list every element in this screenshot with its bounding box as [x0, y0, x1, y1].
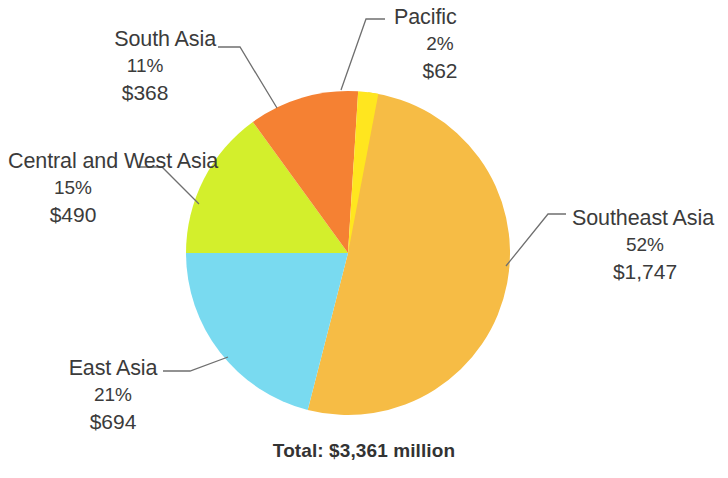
callout-east-asia-name: East Asia	[58, 355, 168, 383]
leader-line-southeast-asia	[506, 214, 566, 266]
callout-pacific-value: $62	[390, 57, 490, 84]
pie-slice-group	[186, 91, 510, 415]
leader-line-east-asia	[163, 357, 228, 371]
leader-line-pacific	[341, 19, 385, 90]
callout-southeast-asia-percent: 52%	[572, 233, 718, 258]
callout-central-and-west-asia: Central and West Asia 15% $490	[8, 148, 138, 228]
callout-southeast-asia-value: $1,747	[572, 258, 718, 285]
leader-line-south-asia	[218, 47, 277, 108]
callout-central-and-west-asia-name: Central and West Asia	[8, 148, 138, 176]
chart-total-label: Total: $3,361 million	[0, 440, 728, 462]
callout-southeast-asia: Southeast Asia 52% $1,747	[572, 205, 718, 285]
callout-pacific-percent: 2%	[390, 32, 490, 57]
callout-south-asia: South Asia 11% $368	[114, 26, 216, 106]
callout-east-asia-percent: 21%	[58, 383, 168, 408]
callout-east-asia-value: $694	[58, 408, 168, 435]
callout-central-and-west-asia-value: $490	[8, 201, 138, 228]
callout-south-asia-value: $368	[114, 79, 216, 106]
callout-south-asia-name: South Asia	[114, 26, 216, 54]
pie-chart: South Asia 11% $368 Central and West Asi…	[0, 0, 728, 478]
callout-east-asia: East Asia 21% $694	[58, 355, 168, 435]
callout-south-asia-percent: 11%	[114, 54, 216, 79]
callout-central-and-west-asia-percent: 15%	[8, 176, 138, 201]
callout-pacific-name: Pacific	[390, 4, 490, 32]
callout-pacific: Pacific 2% $62	[390, 4, 490, 84]
callout-southeast-asia-name: Southeast Asia	[572, 205, 718, 233]
